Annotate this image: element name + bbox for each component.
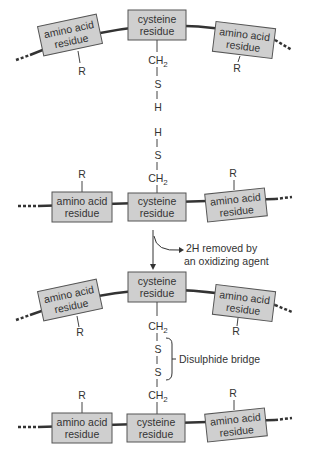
bridge-bracket (166, 338, 172, 380)
svg-text:CH2: CH2 (148, 172, 168, 187)
amino-acid-box: amino acid residue (212, 284, 275, 321)
svg-text:amino acid: amino acid (57, 195, 108, 207)
bottom-chain-after: CH2 R amino acid residue cysteine residu… (18, 387, 292, 443)
svg-text:cysteine: cysteine (138, 195, 177, 207)
svg-text:residue: residue (65, 428, 100, 440)
amino-acid-box: amino acid residue (38, 14, 103, 56)
svg-text:S: S (154, 149, 161, 161)
svg-text:residue: residue (140, 25, 175, 37)
cysteine-box: cysteine residue (128, 10, 186, 40)
svg-text:R: R (76, 326, 84, 338)
svg-text:residue: residue (65, 207, 100, 219)
bottom-chain-before: H S CH2 R amino acid residue cysteine re… (18, 126, 292, 222)
svg-text:H: H (154, 101, 162, 113)
svg-text:amino acid: amino acid (57, 416, 108, 428)
svg-text:residue: residue (139, 428, 174, 440)
svg-text:R: R (229, 387, 237, 399)
svg-text:S: S (154, 366, 161, 378)
svg-text:S: S (154, 343, 161, 355)
svg-text:an oxidizing agent: an oxidizing agent (184, 255, 269, 267)
svg-text:R: R (233, 62, 241, 74)
amino-acid-box: amino acid residue (52, 192, 112, 222)
svg-text:R: R (78, 389, 86, 401)
svg-text:cysteine: cysteine (138, 275, 177, 287)
svg-text:H: H (154, 126, 162, 138)
amino-acid-box: amino acid residue (212, 21, 275, 58)
svg-text:CH2: CH2 (148, 320, 168, 335)
cysteine-box: cysteine residue (127, 414, 185, 442)
svg-text:CH2: CH2 (148, 389, 168, 404)
amino-acid-box: amino acid residue (38, 279, 103, 321)
amino-acid-box: amino acid residue (205, 188, 268, 222)
svg-text:CH2: CH2 (148, 54, 168, 69)
svg-text:R: R (78, 65, 86, 77)
svg-text:cysteine: cysteine (137, 416, 176, 428)
svg-text:R: R (78, 168, 86, 180)
svg-text:cysteine: cysteine (138, 13, 177, 25)
svg-text:S: S (154, 78, 161, 90)
svg-text:Disulphide bridge: Disulphide bridge (179, 353, 260, 365)
svg-text:residue: residue (140, 207, 175, 219)
reaction-arrow: 2H removed by an oxidizing agent (150, 230, 269, 270)
top-chain-before: amino acid residue R cysteine residue CH… (16, 10, 292, 113)
svg-text:residue: residue (140, 287, 175, 299)
disulphide-bridge-diagram: amino acid residue R cysteine residue CH… (0, 0, 311, 456)
amino-acid-box: amino acid residue (205, 408, 268, 442)
cysteine-box: cysteine residue (128, 193, 186, 221)
svg-text:2H removed by: 2H removed by (186, 242, 258, 254)
svg-text:R: R (229, 167, 237, 179)
svg-text:R: R (232, 325, 240, 337)
cysteine-box: cysteine residue (128, 272, 186, 302)
amino-acid-box: amino acid residue (52, 413, 112, 443)
